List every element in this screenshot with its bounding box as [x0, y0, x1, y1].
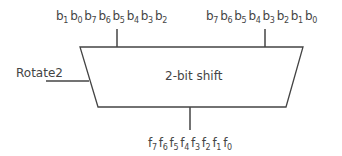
bit-label: b4: [248, 9, 260, 23]
bit-label: b0: [70, 9, 82, 23]
bit-label: b7: [84, 9, 96, 23]
bit-label: f2: [202, 136, 211, 150]
output-bits: f7f6f5f4f3f2f1f0: [148, 137, 234, 152]
bit-label: f0: [223, 136, 232, 150]
bit-label: b6: [220, 9, 232, 23]
bit-label: f3: [191, 136, 200, 150]
bit-label: b1: [291, 9, 303, 23]
bit-label: b3: [263, 9, 275, 23]
bit-label: f6: [159, 136, 168, 150]
bit-label: f5: [169, 136, 178, 150]
bit-label: b7: [206, 9, 218, 23]
bit-label: f7: [148, 136, 157, 150]
bit-label: b4: [127, 9, 139, 23]
control-label: Rotate2: [16, 67, 63, 79]
input-left-bits: b1b0b7b6b5b4b3b2: [56, 10, 169, 25]
bit-label: b6: [98, 9, 110, 23]
block-label: 2-bit shift: [165, 70, 222, 82]
bit-label: b2: [155, 9, 167, 23]
bit-label: b2: [277, 9, 289, 23]
input-right-bits: b7b6b5b4b3b2b1b0: [206, 10, 319, 25]
bit-label: b3: [141, 9, 153, 23]
bit-label: b5: [234, 9, 246, 23]
bit-label: b5: [113, 9, 125, 23]
bit-label: f1: [212, 136, 221, 150]
bit-label: b1: [56, 9, 68, 23]
bit-label: f4: [180, 136, 189, 150]
bit-label: b0: [305, 9, 317, 23]
